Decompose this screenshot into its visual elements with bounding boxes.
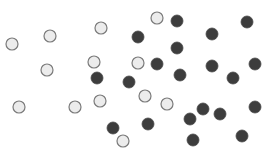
dark-dot xyxy=(151,58,163,70)
dark-dot xyxy=(206,60,218,72)
light-dot xyxy=(41,64,53,76)
light-dot xyxy=(117,135,129,147)
light-dot xyxy=(132,57,144,69)
dots-layer xyxy=(0,0,268,160)
dark-dot xyxy=(142,118,154,130)
dark-dot xyxy=(91,72,103,84)
light-dot xyxy=(13,101,25,113)
dot-field xyxy=(0,0,268,160)
dark-dot xyxy=(236,130,248,142)
light-dot xyxy=(161,98,173,110)
dark-dot xyxy=(241,16,253,28)
dark-dot xyxy=(249,101,261,113)
dark-dot xyxy=(249,58,261,70)
light-dot xyxy=(44,30,56,42)
light-dot xyxy=(151,12,163,24)
light-dot xyxy=(95,22,107,34)
dark-dot xyxy=(206,28,218,40)
dark-dot xyxy=(132,31,144,43)
light-dot xyxy=(94,95,106,107)
dark-dot xyxy=(197,103,209,115)
dark-dot xyxy=(214,108,226,120)
dark-dot xyxy=(171,15,183,27)
dark-dot xyxy=(184,113,196,125)
dark-dot xyxy=(107,122,119,134)
dark-dot xyxy=(187,134,199,146)
light-dot xyxy=(88,56,100,68)
dark-dot xyxy=(123,76,135,88)
dark-dot xyxy=(174,69,186,81)
dark-dot xyxy=(227,72,239,84)
dark-dot xyxy=(171,42,183,54)
light-dot xyxy=(139,90,151,102)
light-dot xyxy=(69,101,81,113)
light-dot xyxy=(6,38,18,50)
